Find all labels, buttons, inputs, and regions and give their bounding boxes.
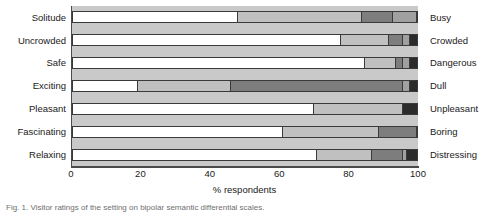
left-category-label: Fascinating	[0, 120, 70, 143]
bar-segment	[410, 81, 417, 91]
bar-row	[72, 120, 418, 143]
bar-segment	[73, 12, 238, 22]
right-category-axis: Busy Crowded Dangerous Dull Unpleasant B…	[424, 6, 492, 166]
bar-segment	[410, 35, 417, 45]
x-axis-ticks: 020406080100	[71, 168, 418, 182]
bar-segment	[231, 81, 403, 91]
bar-row	[72, 75, 418, 98]
bar-segment	[73, 35, 341, 45]
bar-segment	[410, 58, 417, 68]
stacked-bar	[72, 126, 418, 138]
bar-segment	[73, 104, 314, 114]
left-category-label: Pleasant	[0, 97, 70, 120]
bar-segment	[73, 150, 317, 160]
right-category-label: Crowded	[424, 29, 492, 52]
left-category-label: Solitude	[0, 6, 70, 29]
bar-segment	[362, 12, 393, 22]
bar-row	[72, 29, 418, 52]
bar-segment	[73, 58, 365, 68]
bar-segment	[73, 127, 283, 137]
left-category-label: Uncrowded	[0, 29, 70, 52]
bar-segment	[372, 150, 403, 160]
x-tick-label: 80	[343, 168, 354, 179]
bar-segment	[379, 127, 417, 137]
bar-segment	[314, 104, 403, 114]
stacked-bar	[72, 103, 418, 115]
bar-row	[72, 6, 418, 29]
stacked-bar	[72, 149, 418, 161]
bar-segment	[403, 81, 410, 91]
bar-segment	[403, 104, 417, 114]
bar-segment	[389, 35, 403, 45]
left-category-axis: Solitude Uncrowded Safe Exciting Pleasan…	[0, 6, 70, 166]
x-tick-label: 0	[68, 168, 73, 179]
left-category-label: Safe	[0, 52, 70, 75]
right-category-label: Busy	[424, 6, 492, 29]
bar-segment	[341, 35, 389, 45]
left-category-label: Relaxing	[0, 143, 70, 166]
plot-area	[71, 6, 418, 166]
bar-row	[72, 52, 418, 75]
bar-segment	[403, 58, 410, 68]
left-category-label: Exciting	[0, 75, 70, 98]
bar-segment	[365, 58, 396, 68]
x-tick-label: 60	[274, 168, 285, 179]
right-category-label: Dull	[424, 75, 492, 98]
x-tick-label: 20	[135, 168, 146, 179]
stacked-bar	[72, 57, 418, 69]
figure-caption: Fig. 1. Visitor ratings of the setting o…	[6, 203, 486, 212]
bar-segment	[403, 35, 410, 45]
bar-segment	[317, 150, 372, 160]
bar-row	[72, 97, 418, 120]
x-tick-label: 100	[410, 168, 426, 179]
bar-segment	[407, 150, 417, 160]
stacked-bar	[72, 11, 418, 23]
stacked-bar-rows	[72, 6, 418, 166]
chart-plot-grid: Solitude Uncrowded Safe Exciting Pleasan…	[0, 6, 492, 166]
stacked-bar	[72, 34, 418, 46]
right-category-label: Boring	[424, 120, 492, 143]
right-category-label: Dangerous	[424, 52, 492, 75]
bar-segment	[393, 12, 417, 22]
bar-segment	[283, 127, 379, 137]
bar-segment	[138, 81, 231, 91]
stacked-bar	[72, 80, 418, 92]
x-axis-title: % respondents	[71, 184, 418, 195]
bar-segment	[238, 12, 362, 22]
right-category-label: Distressing	[424, 143, 492, 166]
right-category-label: Unpleasant	[424, 97, 492, 120]
bar-row	[72, 143, 418, 166]
chart-figure: Solitude Uncrowded Safe Exciting Pleasan…	[0, 0, 492, 213]
bar-segment	[396, 58, 403, 68]
x-tick-label: 40	[205, 168, 216, 179]
bar-segment	[73, 81, 138, 91]
